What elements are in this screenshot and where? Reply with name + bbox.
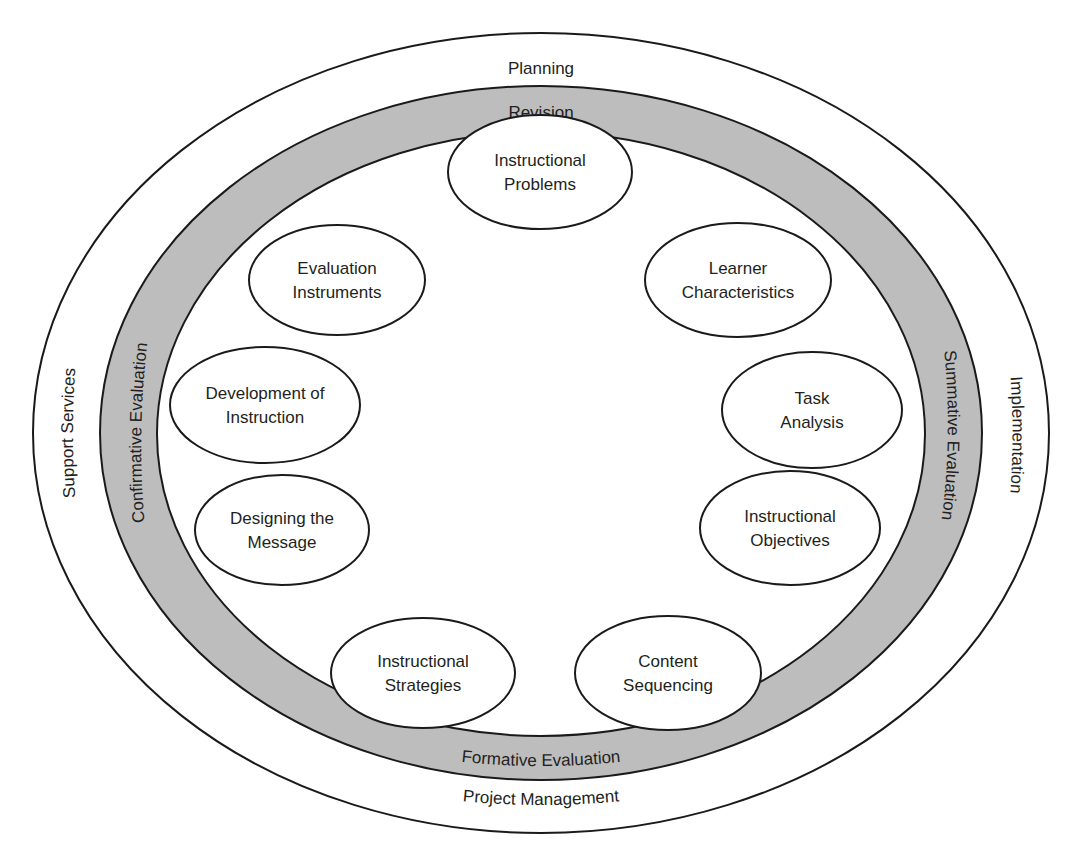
- svg-text:Content: Content: [638, 652, 698, 671]
- svg-text:Instruction: Instruction: [226, 408, 304, 427]
- svg-text:Analysis: Analysis: [780, 413, 843, 432]
- svg-text:Sequencing: Sequencing: [623, 676, 713, 695]
- svg-text:Instructional: Instructional: [377, 652, 469, 671]
- node-designing-the-message: Designing the Message: [195, 475, 369, 585]
- svg-text:Problems: Problems: [504, 175, 576, 194]
- instructional-design-model-diagram: Planning Project Management Support Serv…: [0, 0, 1083, 867]
- outer-label-planning: Planning: [508, 59, 574, 78]
- svg-text:Strategies: Strategies: [385, 676, 462, 695]
- svg-text:Instructional: Instructional: [744, 507, 836, 526]
- outer-label-support-services: Support Services: [58, 367, 79, 498]
- svg-text:Evaluation: Evaluation: [297, 259, 376, 278]
- svg-text:Instructional: Instructional: [494, 151, 586, 170]
- node-learner-characteristics: Learner Characteristics: [645, 223, 831, 337]
- svg-text:Development of: Development of: [205, 384, 324, 403]
- node-instructional-strategies: Instructional Strategies: [331, 618, 515, 728]
- node-development-of-instruction: Development of Instruction: [170, 347, 360, 463]
- svg-text:Designing the: Designing the: [230, 509, 334, 528]
- node-task-analysis: Task Analysis: [722, 352, 902, 468]
- node-instructional-problems: Instructional Problems: [448, 115, 632, 229]
- svg-text:Instruments: Instruments: [293, 283, 382, 302]
- svg-text:Characteristics: Characteristics: [682, 283, 794, 302]
- outer-label-implementation: Implementation: [1006, 376, 1027, 494]
- node-content-sequencing: Content Sequencing: [575, 616, 761, 730]
- svg-text:Learner: Learner: [709, 259, 768, 278]
- node-evaluation-instruments: Evaluation Instruments: [249, 225, 425, 335]
- node-instructional-objectives: Instructional Objectives: [700, 471, 880, 585]
- svg-text:Objectives: Objectives: [750, 531, 829, 550]
- svg-text:Task: Task: [795, 389, 830, 408]
- svg-text:Message: Message: [248, 533, 317, 552]
